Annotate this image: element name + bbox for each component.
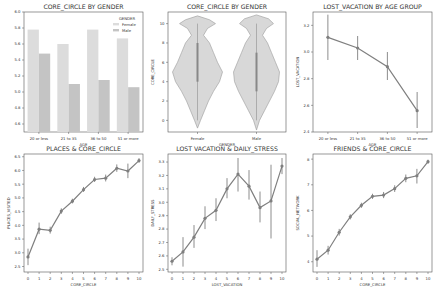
chart-title: LOST_VACATION BY AGE GROUP [323,3,422,11]
x-tick-label: Female [191,136,205,141]
line-series [317,162,428,259]
axes-frame [24,154,143,272]
legend-swatch [113,29,119,31]
y-tick-label: 10 [160,21,165,26]
x-tick-label: 0 [27,276,30,281]
x-tick-label: 3 [60,276,63,281]
x-tick-label: 8 [259,276,262,281]
y-tick-label: 5 [307,233,310,238]
data-point [82,188,85,191]
data-point [258,206,261,209]
subplot-core_circle_by_gender_violin: CORE_CIRCLE BY GENDERGENDERCORE_CIRCLE02… [150,3,286,147]
x-tick-label: 4 [360,276,363,281]
x-tick-label: 10 [426,276,431,281]
y-tick-label: 7 [307,182,310,187]
y-tick-label: 3.0 [158,200,165,205]
subplot-places_and_core_circle: PLACES & CORE_CIRCLECORE_CIRCLEPLACES_VI… [6,145,143,287]
data-point [327,249,330,252]
data-point [104,177,107,180]
x-tick-label: 5 [371,276,374,281]
x-tick-label: 20 or less [30,136,48,141]
data-point [326,36,329,39]
x-tick-label: 51 or more [407,136,429,141]
chart-title: LOST VACATION & DAILY_STRESS [176,145,278,153]
bar-female [117,38,128,132]
x-tick-label: 2 [193,276,196,281]
x-tick-label: 9 [270,276,273,281]
y-tick-label: 5.0 [14,195,21,200]
y-tick-label: 5.0 [14,89,21,94]
x-tick-label: 21 to 35 [350,136,366,141]
chart-title: CORE_CIRCLE BY GENDER [43,3,124,11]
x-tick-label: 7 [104,276,107,281]
data-point [60,209,63,212]
y-tick-label: 6 [307,208,310,213]
legend-swatch [113,23,119,25]
y-tick-label: 3.2 [158,173,165,178]
bar-male [128,87,139,132]
figure-canvas: CORE_CIRCLE BY GENDERAGE4.64.85.05.25.45… [0,0,436,287]
data-point [393,187,396,190]
data-point [371,195,374,198]
y-tick-label: 8 [162,40,165,45]
y-axis-label: LOST_VACATION [295,56,300,87]
y-tick-label: 2.4 [303,129,310,134]
y-tick-label: 3.5 [14,236,21,241]
y-tick-label: 6.5 [14,154,21,159]
x-tick-label: 5 [226,276,229,281]
y-tick-label: 0 [162,118,165,123]
x-tick-label: 10 [280,276,285,281]
subplot-friends_and_core_circle: FRIENDS & CORE_CIRCLECORE_CIRCLESOCIAL_N… [295,145,432,287]
line-series [28,161,139,257]
y-tick-label: 2.8 [158,226,165,231]
chart-title: PLACES & CORE_CIRCLE [46,145,121,153]
y-tick-label: 4.0 [14,223,21,228]
bar-female [57,44,68,132]
x-tick-label: 1 [38,276,41,281]
x-tick-label: 5 [82,276,85,281]
data-point [426,160,429,163]
x-tick-label: 7 [248,276,251,281]
y-axis-label: DAILY_STRESS [150,199,155,227]
data-point [416,109,419,112]
y-tick-label: 4.8 [14,105,21,110]
data-point [192,236,195,239]
y-axis-label: SOCIAL_NETWORK [295,195,300,231]
x-tick-label: 0 [316,276,319,281]
axes-frame [168,154,286,272]
x-tick-label: 4 [215,276,218,281]
line-series [328,37,417,110]
data-point [49,229,52,232]
subplot-lost_vacation_and_daily_stress: LOST VACATION & DAILY_STRESSLOST_VACATIO… [150,145,286,287]
y-tick-label: 2.6 [303,103,310,108]
data-point [115,167,118,170]
subplot-lost_vacation_by_age_group: LOST_VACATION BY AGE GROUPAGELOST_VACATI… [295,3,432,147]
y-tick-label: 3.2 [303,23,310,28]
data-point [181,250,184,253]
data-point [225,187,228,190]
y-tick-label: 5.8 [14,25,21,30]
y-tick-label: 6.0 [14,168,21,173]
bar-female [28,30,39,132]
x-tick-label: 1 [327,276,330,281]
x-tick-label: 8 [116,276,119,281]
bar-male [98,80,109,132]
bar-male [39,54,50,132]
x-tick-label: 8 [405,276,408,281]
y-tick-label: 4.6 [14,121,21,126]
data-point [404,177,407,180]
x-tick-label: 7 [393,276,396,281]
y-tick-label: 6 [162,60,165,65]
x-tick-label: 0 [171,276,174,281]
y-tick-label: 2 [162,98,165,103]
data-point [38,228,41,231]
chart-title: FRIENDS & CORE_CIRCLE [334,145,412,153]
data-point [280,164,283,167]
data-point [247,185,250,188]
data-point [93,178,96,181]
y-tick-label: 3.3 [158,159,165,164]
data-point [203,217,206,220]
data-point [214,209,217,212]
data-point [137,159,140,162]
legend-title: GENDER [119,16,136,21]
